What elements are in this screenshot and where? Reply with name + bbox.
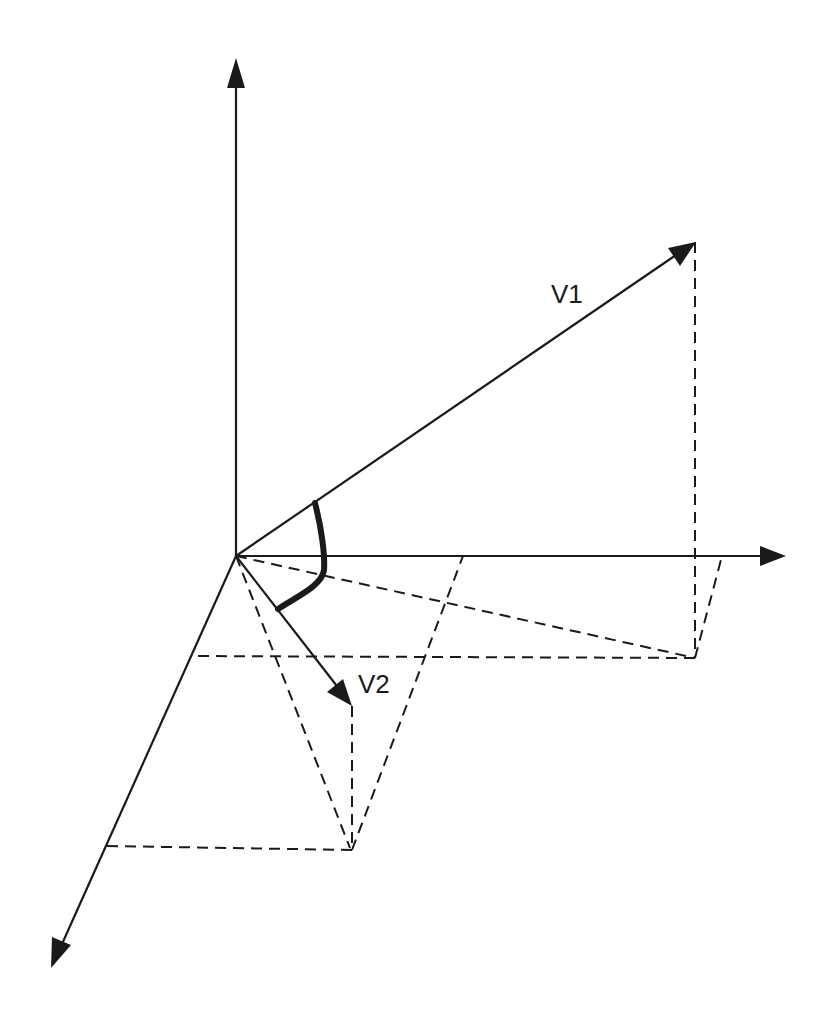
label-v1: V1	[551, 279, 583, 309]
y-axis-arrow-icon	[227, 58, 245, 88]
axes	[51, 58, 786, 968]
z-axis-arrow-icon	[51, 937, 71, 968]
v1-base-to-z-axis	[192, 656, 695, 658]
v2-base-to-x-axis	[352, 556, 463, 850]
v1-base-to-x-axis	[695, 556, 722, 658]
label-v2: V2	[358, 669, 390, 699]
vector-diagram: V1 V2	[0, 0, 833, 1017]
vector-v1	[236, 255, 676, 556]
vectors	[236, 242, 696, 706]
v2-base-to-z-axis	[106, 846, 352, 850]
vector-v2-arrowhead-icon	[327, 679, 352, 706]
projection-lines	[106, 242, 722, 850]
z-axis	[62, 556, 236, 944]
v1-origin-to-base	[236, 556, 695, 658]
vector-v1-arrowhead-icon	[668, 242, 696, 266]
x-axis-arrow-icon	[760, 546, 786, 566]
